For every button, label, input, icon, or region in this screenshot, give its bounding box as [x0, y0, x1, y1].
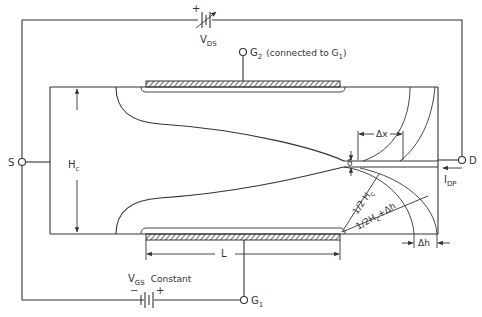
g2-terminal[interactable]: [240, 49, 247, 56]
bottom-gate-electrode: [146, 234, 340, 240]
length-label: L: [221, 248, 227, 259]
drain-label: D: [469, 155, 477, 166]
hc-label: Hc: [68, 159, 80, 173]
vds-plus-sign: +: [192, 3, 200, 14]
delta-x-label: Δx: [376, 129, 388, 139]
g2-label: G2(connected to G1): [250, 47, 347, 61]
g1-label: G1: [251, 295, 263, 309]
lower-depletion-boundary: [116, 167, 438, 234]
vds-label: VDS: [200, 34, 217, 48]
bottom-gate-junction: [141, 228, 345, 234]
upper-outer-arc: [400, 87, 435, 161]
top-gate-junction: [141, 87, 345, 92]
delta-label: δ: [347, 158, 353, 168]
top-gate-electrode: [146, 81, 340, 87]
delta-h-label: Δh: [418, 238, 430, 248]
outer-circuit-wire: [22, 20, 462, 300]
upper-depletion-boundary: [116, 87, 438, 161]
source-terminal[interactable]: [19, 159, 26, 166]
source-label: S: [8, 157, 14, 168]
half-hc-label: 1/2 Hc: [350, 187, 377, 217]
vgs-plus-sign: +: [156, 285, 164, 296]
jfet-diagram: + VDS S D IDP G2(connected to G1) G1: [0, 0, 482, 317]
drain-terminal[interactable]: [459, 157, 466, 164]
idp-label: IDP: [444, 174, 457, 188]
g1-terminal[interactable]: [241, 297, 248, 304]
